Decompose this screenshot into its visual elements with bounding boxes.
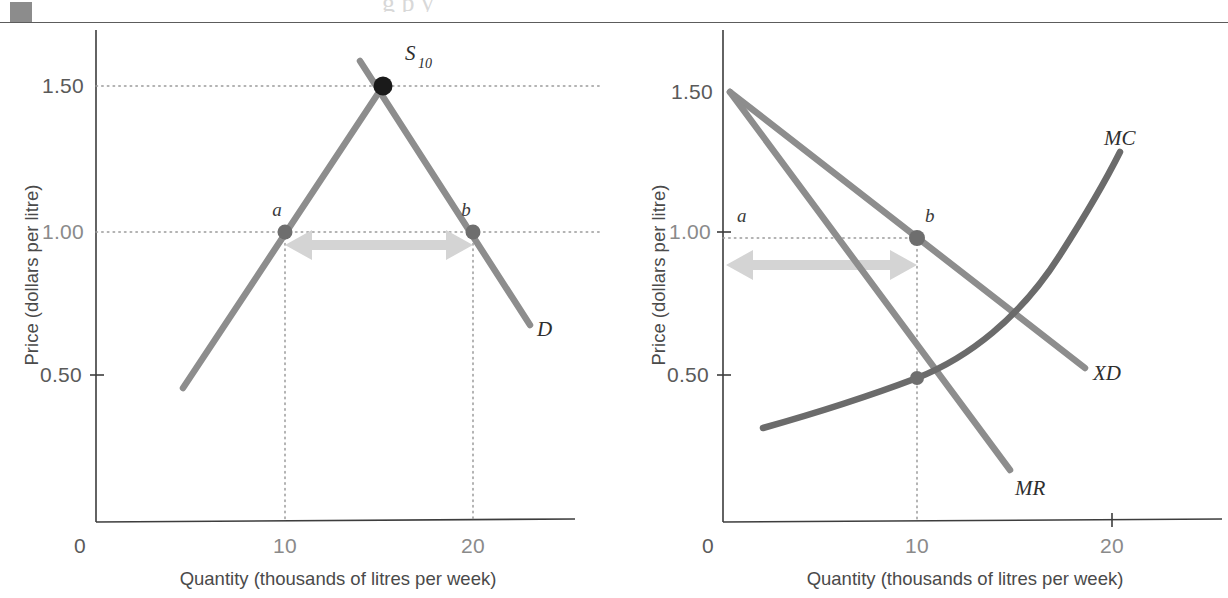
right-mr-mc-intersection-dot [910,371,924,385]
right-x-axis-title: Quantity (thousands of litres per week) [807,568,1124,589]
right-point-a-label: a [737,205,747,226]
right-mr-curve-label: MR [1014,476,1045,500]
right-panel-chart: Price (dollars per litre) Quantity (thou… [0,0,1228,598]
right-xd-curve-label: XD [1092,361,1121,385]
right-point-b-dot [909,230,925,246]
right-y-axis-title: Price (dollars per litre) [648,185,669,366]
right-point-b-label: b [925,205,935,226]
right-x-axis [723,519,1222,522]
right-mc-curve-label: MC [1103,126,1136,150]
right-y-tick-label-150: 1.50 [671,80,713,103]
right-y-tick-label-100: 1.00 [669,220,711,243]
right-mc-curve [763,152,1120,428]
figure-canvas: g p y Price (dollars per litre) Quantity… [0,0,1228,598]
right-x-tick-label-20: 20 [1100,534,1124,557]
right-x-tick-label-0: 0 [702,534,714,557]
right-y-tick-label-050: 0.50 [667,363,709,386]
right-x-tick-label-10: 10 [905,534,929,557]
right-quantity-gap-arrow [726,250,917,280]
